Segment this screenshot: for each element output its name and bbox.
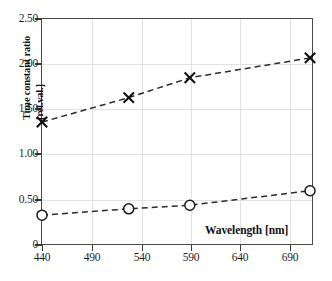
x-tick-label: 690 xyxy=(282,252,299,264)
gridline-horizontal xyxy=(42,154,312,155)
x-tick-label: 640 xyxy=(232,252,249,264)
plot-area xyxy=(41,18,313,245)
gridline-vertical xyxy=(191,19,192,244)
gridline-vertical xyxy=(240,19,241,244)
y-tick-label: 0.50 xyxy=(19,194,38,206)
x-tick-label: 440 xyxy=(34,252,51,264)
gridline-horizontal xyxy=(42,200,312,201)
gridline-vertical xyxy=(142,19,143,244)
gridline-vertical xyxy=(290,19,291,244)
x-tick-label: 590 xyxy=(183,252,200,264)
y-axis-label-text: Time constant ratio [rel.val.] xyxy=(20,18,50,120)
gridline-vertical xyxy=(92,19,93,244)
x-tick-label: 490 xyxy=(84,252,101,264)
y-tick-label: 0 xyxy=(32,239,38,251)
gridline-horizontal xyxy=(42,64,312,65)
gridline-horizontal xyxy=(42,109,312,110)
chart-figure: 2.50 2.00 1.50 1.00 0.50 0 440 490 540 5… xyxy=(0,0,332,281)
x-tick-label: 540 xyxy=(134,252,151,264)
y-tick-label: 1.00 xyxy=(19,148,38,160)
x-axis-label: Wavelength [nm] xyxy=(205,224,288,236)
y-axis-label: Time constant ratio [rel.val.] xyxy=(50,18,80,120)
y-axis-label-line-1: Time constant xyxy=(21,59,32,120)
